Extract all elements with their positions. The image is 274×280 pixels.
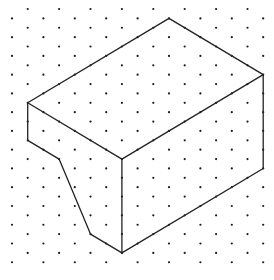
grid-dot xyxy=(42,74,44,76)
grid-dot xyxy=(231,149,233,151)
grid-dot xyxy=(199,224,201,226)
grid-dot xyxy=(184,158,186,160)
grid-dot xyxy=(199,186,201,188)
grid-dot xyxy=(105,36,107,38)
grid-dot xyxy=(215,214,217,216)
grid-dot xyxy=(137,17,139,19)
grid-dot xyxy=(89,27,91,29)
grid-dot xyxy=(168,92,170,94)
grid-dot xyxy=(231,130,233,132)
grid-dot xyxy=(262,186,264,188)
grid-dot xyxy=(137,111,139,113)
grid-dot xyxy=(89,196,91,198)
grid-dot xyxy=(199,130,201,132)
grid-dot xyxy=(199,149,201,151)
grid-dot xyxy=(11,111,13,113)
grid-dot xyxy=(152,83,154,85)
isometric-drawing-canvas xyxy=(0,0,274,280)
grid-dot xyxy=(58,196,60,198)
grid-dot xyxy=(246,252,248,254)
grid-dot xyxy=(42,55,44,57)
grid-dot xyxy=(11,130,13,132)
grid-dot xyxy=(74,186,76,188)
grid-dot xyxy=(11,224,13,226)
grid-dot xyxy=(199,74,201,76)
grid-dot xyxy=(184,102,186,104)
grid-dot xyxy=(152,252,154,254)
grid-dot xyxy=(27,214,29,216)
dot-grid xyxy=(11,8,264,263)
grid-dot xyxy=(137,261,139,263)
grid-dot xyxy=(215,139,217,141)
grid-dot xyxy=(168,205,170,207)
grid-dot xyxy=(105,205,107,207)
grid-dot xyxy=(184,196,186,198)
grid-dot xyxy=(215,177,217,179)
grid-dot xyxy=(168,261,170,263)
grid-dot xyxy=(246,102,248,104)
grid-dot xyxy=(42,242,44,244)
grid-dot xyxy=(262,261,264,263)
grid-dot xyxy=(121,8,123,10)
grid-dot xyxy=(246,45,248,47)
grid-dot xyxy=(105,167,107,169)
grid-dot xyxy=(137,92,139,94)
grid-dot xyxy=(11,92,13,94)
grid-dot xyxy=(262,55,264,57)
grid-dot xyxy=(58,45,60,47)
grid-dot xyxy=(246,8,248,10)
grid-dot xyxy=(168,55,170,57)
grid-dot xyxy=(58,139,60,141)
grid-dot xyxy=(137,167,139,169)
grid-dot xyxy=(184,252,186,254)
grid-dot xyxy=(89,83,91,85)
grid-dot xyxy=(184,233,186,235)
grid-dot xyxy=(89,45,91,47)
grid-dot xyxy=(11,74,13,76)
grid-dot xyxy=(137,130,139,132)
grid-dot xyxy=(11,167,13,169)
grid-dot xyxy=(105,111,107,113)
grid-dot xyxy=(262,224,264,226)
grid-dot xyxy=(42,224,44,226)
grid-dot xyxy=(152,158,154,160)
grid-dot xyxy=(184,8,186,10)
grid-dot xyxy=(74,149,76,151)
grid-dot xyxy=(11,186,13,188)
grid-dot xyxy=(121,120,123,122)
grid-dot xyxy=(58,27,60,29)
grid-dot xyxy=(152,196,154,198)
grid-dot xyxy=(11,55,13,57)
grid-dot xyxy=(11,36,13,38)
grid-dot xyxy=(89,102,91,104)
grid-dot xyxy=(184,64,186,66)
grid-dot xyxy=(215,120,217,122)
grid-dot xyxy=(42,36,44,38)
grid-dot xyxy=(184,45,186,47)
grid-dot xyxy=(199,242,201,244)
grid-dot xyxy=(89,158,91,160)
grid-dot xyxy=(215,8,217,10)
grid-dot xyxy=(121,139,123,141)
grid-dot xyxy=(74,17,76,19)
grid-dot xyxy=(42,167,44,169)
grid-dot xyxy=(262,242,264,244)
grid-dot xyxy=(74,224,76,226)
grid-dot xyxy=(168,186,170,188)
grid-dot xyxy=(121,102,123,104)
grid-dot xyxy=(27,83,29,85)
grid-dot xyxy=(74,92,76,94)
grid-dot xyxy=(58,233,60,235)
grid-dot xyxy=(74,167,76,169)
grid-dot xyxy=(137,74,139,76)
grid-dot xyxy=(184,177,186,179)
grid-dot xyxy=(231,205,233,207)
grid-dot xyxy=(246,214,248,216)
grid-dot xyxy=(27,8,29,10)
grid-dot xyxy=(137,224,139,226)
grid-dot xyxy=(215,64,217,66)
grid-dot xyxy=(42,186,44,188)
edge-left_bottom-to-notch_upper xyxy=(28,140,59,159)
grid-dot xyxy=(184,139,186,141)
grid-dot xyxy=(105,74,107,76)
